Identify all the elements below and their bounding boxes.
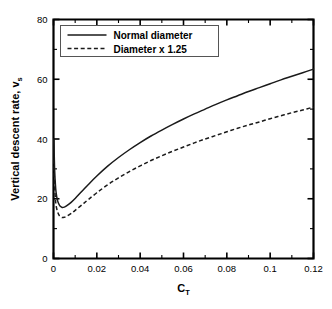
x-tick-label: 0.04 [131,263,150,274]
x-axis-title: CT [177,282,190,297]
x-tick-label: 0.1 [264,263,277,274]
y-tick-label: 0 [42,253,47,264]
y-tick-label: 20 [37,193,48,204]
x-tick-label: 0.12 [304,263,323,274]
chart-legend: Normal diameterDiameter x 1.25 [61,26,219,57]
legend-label-1: Normal diameter [114,30,193,41]
series-line-2 [54,107,314,218]
y-axis-title: Vertical descent rate, vs [9,77,24,200]
series-line-1 [54,69,314,207]
vertical-descent-rate-chart: 00.020.040.060.080.10.12 020406080 Norma… [0,0,332,309]
x-tick-label: 0 [51,263,56,274]
y-tick-label: 60 [37,74,48,85]
x-tick-label: 0.06 [174,263,193,274]
x-tick-label: 0.08 [218,263,237,274]
y-axis-tick-labels: 020406080 [37,14,48,264]
y-tick-label: 80 [37,14,48,25]
x-tick-label: 0.02 [88,263,107,274]
data-series-layer [54,69,314,218]
x-axis-tick-labels: 00.020.040.060.080.10.12 [51,263,323,274]
legend-label-2: Diameter x 1.25 [114,44,188,55]
y-tick-label: 40 [37,134,48,145]
chart-figure: 00.020.040.060.080.10.12 020406080 Norma… [0,0,332,309]
